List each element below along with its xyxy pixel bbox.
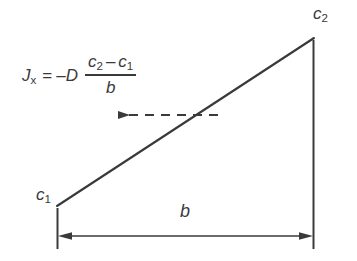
equation-equals-sign: = bbox=[42, 66, 52, 86]
label-c1-subscript: 1 bbox=[45, 193, 51, 205]
diagram-canvas bbox=[0, 0, 357, 261]
numerator-c1-symbol: c bbox=[118, 52, 127, 71]
equation-denominator: b bbox=[103, 76, 118, 98]
equation-lhs: Jx bbox=[22, 66, 36, 86]
equation-fraction: c2–c1 b bbox=[85, 52, 136, 98]
equation-flux-symbol: J bbox=[22, 66, 31, 85]
numerator-c2-subscript: 2 bbox=[96, 60, 102, 72]
label-c2: c2 bbox=[313, 5, 328, 22]
label-c2-subscript: 2 bbox=[322, 12, 328, 24]
numerator-minus-operator: – bbox=[106, 52, 115, 71]
equation-flux-subscript: x bbox=[31, 74, 37, 86]
label-c1: c1 bbox=[36, 186, 51, 203]
diffusion-diagram: c1 c2 b Jx = –D c2–c1 b bbox=[0, 0, 357, 261]
label-c1-symbol: c bbox=[36, 185, 45, 204]
label-width-b: b bbox=[180, 202, 190, 220]
numerator-c1-subscript: 1 bbox=[127, 60, 133, 72]
equation-numerator: c2–c1 bbox=[85, 52, 136, 74]
flux-equation: Jx = –D c2–c1 b bbox=[22, 53, 136, 99]
label-c2-symbol: c bbox=[313, 4, 322, 23]
equation-coefficient: –D bbox=[56, 66, 78, 86]
